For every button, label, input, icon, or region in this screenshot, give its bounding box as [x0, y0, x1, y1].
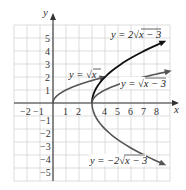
y-tick-label: −3 [40, 141, 51, 152]
curve-arrow-icon [164, 69, 171, 75]
x-tick-label: 7 [141, 106, 146, 117]
y-tick-label: −1 [40, 115, 51, 126]
label-sqrt-shift-radicand: x − 3 [143, 78, 166, 89]
y-tick-label: −2 [40, 128, 51, 139]
y-tick-label: 2 [45, 72, 50, 83]
x-tick-label: −2 [20, 106, 31, 117]
y-tick-label: −4 [40, 154, 51, 165]
x-tick-label: 8 [154, 106, 159, 117]
label-sqrt-shift-prefix: y = [120, 78, 138, 89]
y-tick-label: 5 [45, 33, 50, 44]
x-tick-label: 1 [63, 106, 68, 117]
y-axis-arrow-icon [50, 13, 56, 20]
y-tick-label: 3 [45, 59, 50, 70]
x-tick-label: 6 [128, 106, 133, 117]
x-tick-label: 4 [102, 106, 107, 117]
y-tick-label: 4 [45, 46, 50, 57]
x-axis-label: x [173, 103, 179, 115]
label-two-sqrt: y = 2√x − 3 [110, 29, 161, 40]
label-sqrt-x-prefix: y = [68, 69, 86, 80]
graph-figure: −2−1124567854321−1−2−3−4−5 y x y = √x y … [0, 0, 186, 190]
label-neg-two-sqrt-radicand: x − 3 [124, 155, 147, 166]
y-axis-label: y [42, 6, 48, 18]
label-neg-two-sqrt-prefix: y = −2 [89, 155, 120, 166]
svg-text:y = 2√x − 3: y = 2√x − 3 [110, 29, 161, 40]
x-tick-label: 2 [76, 106, 81, 117]
coordinate-plane: −2−1124567854321−1−2−3−4−5 y x y = √x y … [0, 0, 186, 190]
svg-text:y = −2√x − 3: y = −2√x − 3 [89, 155, 147, 166]
svg-text:y = √x − 3: y = √x − 3 [120, 78, 166, 89]
label-sqrt-x: y = √x [68, 69, 101, 80]
label-two-sqrt-radicand: x − 3 [138, 29, 161, 40]
svg-text:y = √x: y = √x [68, 69, 97, 80]
x-tick-label: 5 [115, 106, 120, 117]
label-neg-two-sqrt: y = −2√x − 3 [89, 154, 147, 166]
y-tick-label: 1 [45, 85, 50, 96]
label-two-sqrt-prefix: y = 2 [110, 29, 134, 40]
label-sqrt-shift: y = √x − 3 [120, 77, 168, 89]
label-sqrt-x-radicand: x [91, 69, 97, 80]
y-tick-label: −5 [40, 167, 51, 178]
